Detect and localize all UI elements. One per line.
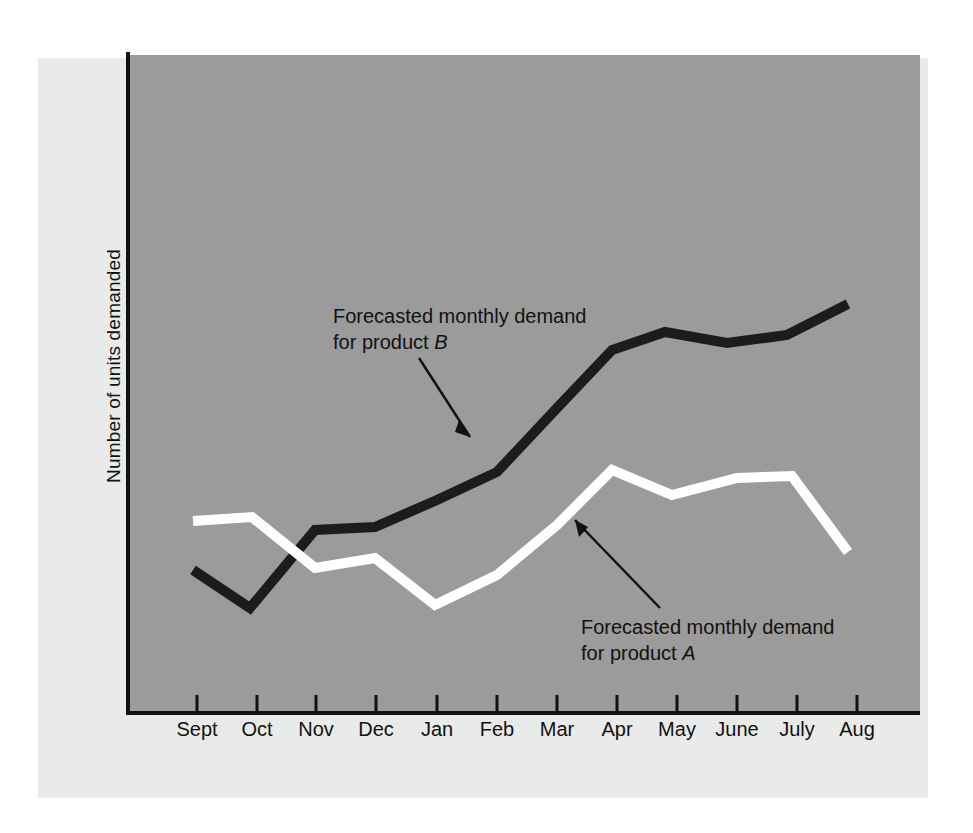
annotation-leader-product-a bbox=[575, 520, 660, 608]
chart-figure: Number of units demanded SeptOctNovDecJa… bbox=[0, 0, 973, 833]
annotation-product-a-line2: for product A bbox=[581, 641, 834, 667]
annotation-product-a: Forecasted monthly demand for product A bbox=[581, 615, 834, 666]
annotation-product-b-prefix: for product bbox=[333, 331, 434, 353]
x-tick-label-nov: Nov bbox=[298, 718, 334, 741]
x-tick-label-oct: Oct bbox=[241, 718, 272, 741]
x-tick-label-may: May bbox=[658, 718, 696, 741]
annotation-product-b-line2: for product B bbox=[333, 330, 586, 356]
annotation-product-a-symbol: A bbox=[682, 642, 695, 664]
x-tick-label-july: July bbox=[779, 718, 815, 741]
x-tick-label-apr: Apr bbox=[601, 718, 632, 741]
series-line-product-a bbox=[193, 470, 848, 605]
annotation-product-a-line1: Forecasted monthly demand bbox=[581, 615, 834, 641]
annotation-product-b: Forecasted monthly demand for product B bbox=[333, 304, 586, 355]
annotation-product-a-prefix: for product bbox=[581, 642, 682, 664]
x-tick-label-dec: Dec bbox=[358, 718, 394, 741]
annotation-product-b-symbol: B bbox=[434, 331, 447, 353]
x-tick-label-june: June bbox=[715, 718, 758, 741]
x-tick-label-aug: Aug bbox=[839, 718, 875, 741]
annotation-arrowhead-product-b bbox=[455, 420, 470, 437]
annotation-leader-product-b bbox=[419, 358, 470, 437]
annotation-arrowhead-product-a bbox=[575, 520, 588, 537]
x-tick-label-sept: Sept bbox=[176, 718, 217, 741]
x-tick-label-mar: Mar bbox=[540, 718, 574, 741]
x-axis-tick-marks bbox=[197, 695, 857, 711]
x-tick-label-jan: Jan bbox=[421, 718, 453, 741]
x-tick-label-feb: Feb bbox=[480, 718, 514, 741]
chart-plot-svg bbox=[0, 0, 973, 833]
annotation-product-b-line1: Forecasted monthly demand bbox=[333, 304, 586, 330]
